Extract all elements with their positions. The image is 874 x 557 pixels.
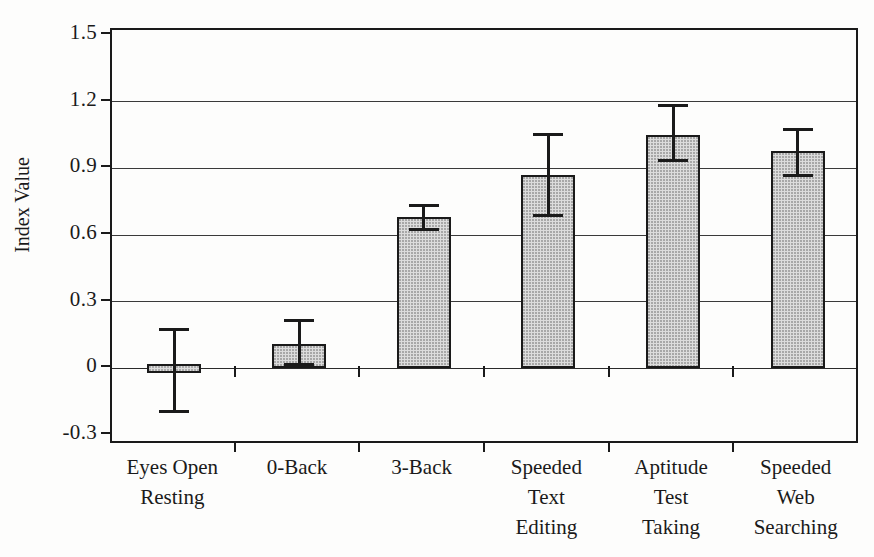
error-bar-cap-upper	[533, 133, 563, 136]
gridline-0.6	[112, 235, 856, 236]
x-axis-category-label: Aptitude Test Taking	[609, 452, 734, 542]
y-tick-label: 0.3	[35, 289, 97, 310]
y-tick-0.6	[101, 232, 110, 234]
y-tick--0.3	[101, 432, 110, 434]
y-tick-0	[101, 365, 110, 367]
x-tick	[608, 366, 610, 377]
error-bar-stem	[547, 133, 550, 217]
x-tick-bottom	[234, 443, 236, 452]
error-bar-cap-upper	[159, 328, 189, 331]
y-tick-label: 0.6	[35, 222, 97, 243]
error-bar-cap-lower	[533, 214, 563, 217]
error-bar-cap-lower	[159, 410, 189, 413]
y-tick-0.9	[101, 165, 110, 167]
error-bar-cap-lower	[783, 174, 813, 177]
bar-chart-figure: Index Value 1.51.20.90.60.30-0.3 Eyes Op…	[0, 0, 874, 557]
x-tick-bottom	[608, 443, 610, 452]
error-bar-cap-lower	[409, 228, 439, 231]
gridline-0.9	[112, 168, 856, 169]
y-tick-label: -0.3	[35, 422, 97, 443]
x-tick	[358, 366, 360, 377]
y-tick-label: 0	[35, 355, 97, 376]
y-tick-1.5	[101, 32, 110, 34]
error-bar-cap-upper	[658, 104, 688, 107]
x-axis-category-label: 0-Back	[235, 452, 360, 482]
bar	[397, 217, 451, 368]
error-bar-cap-upper	[783, 128, 813, 131]
error-bar-stem	[672, 104, 675, 162]
x-tick-bottom	[732, 443, 734, 452]
error-bar-cap-upper	[409, 204, 439, 207]
x-tick-bottom	[358, 443, 360, 452]
y-tick-label: 0.9	[35, 155, 97, 176]
error-bar-cap-lower	[284, 363, 314, 366]
gridline-1.2	[112, 101, 856, 102]
y-tick-label: 1.2	[35, 89, 97, 110]
x-axis-category-label: Speeded Web Searching	[733, 452, 858, 542]
x-tick-bottom	[483, 443, 485, 452]
error-bar-stem	[796, 128, 799, 177]
x-axis-category-label: Speeded Text Editing	[484, 452, 609, 542]
x-axis-category-label: 3-Back	[359, 452, 484, 482]
bar	[771, 151, 825, 369]
error-bar-cap-upper	[284, 319, 314, 322]
error-bar-cap-lower	[658, 159, 688, 162]
y-axis-labels: 1.51.20.90.60.30-0.3	[0, 0, 97, 557]
x-tick	[732, 366, 734, 377]
gridline-0.3	[112, 301, 856, 302]
error-bar-stem	[173, 328, 176, 412]
x-axis-category-label: Eyes Open Resting	[110, 452, 235, 512]
error-bar-stem	[422, 204, 425, 231]
error-bar-stem	[298, 319, 301, 366]
bar	[646, 135, 700, 368]
plot-area	[110, 28, 858, 443]
y-tick-1.2	[101, 99, 110, 101]
y-tick-label: 1.5	[35, 22, 97, 43]
x-tick	[483, 366, 485, 377]
x-tick	[234, 366, 236, 377]
y-tick-0.3	[101, 299, 110, 301]
